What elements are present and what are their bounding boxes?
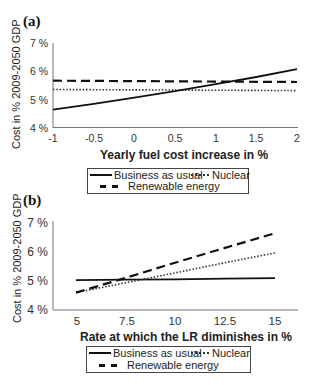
solid-line-swatch: [89, 352, 111, 354]
x-axis-label-a: Yearly fuel cost increase in %: [100, 148, 250, 162]
dotted-line-swatch: [191, 352, 209, 354]
dotted-line-swatch: [191, 174, 209, 176]
x-tick-a-2: 0: [119, 132, 149, 144]
series-bau-b: [76, 278, 275, 280]
legend-b: Business as usual Nuclear Renewable ener…: [86, 346, 251, 373]
series-renewable-a: [53, 81, 297, 82]
solid-line-swatch: [90, 174, 112, 176]
legend-text: Renewable energy: [128, 180, 220, 192]
x-tick-b-4: 15: [260, 315, 290, 327]
x-tick-a-5: 1.5: [241, 132, 271, 144]
x-axis-label-b: Rate at which the LR diminishes in %: [80, 330, 270, 344]
legend-item-nuclear-b: Nuclear: [191, 347, 250, 359]
chart-panel-b: (b) Cost in % 2009-2050 GDP 7 % 6 % 5 % …: [0, 195, 312, 385]
x-tick-a-4: 1: [201, 132, 231, 144]
x-tick-a-3: 0.5: [160, 132, 190, 144]
x-tick-b-1: 7.5: [112, 315, 142, 327]
legend-item-renewable-b: Renewable energy: [99, 359, 219, 371]
legend-text: Business as usual: [113, 347, 202, 359]
legend-text: Nuclear: [212, 347, 250, 359]
legend-item-bau-b: Business as usual: [89, 347, 202, 359]
x-tick-b-3: 12.5: [210, 315, 240, 327]
dashed-line-swatch: [99, 364, 117, 367]
series-nuclear-b: [76, 253, 275, 293]
plot-area-a: [0, 0, 312, 195]
dashed-line-swatch: [100, 185, 118, 188]
x-tick-a-1: -0.5: [79, 132, 109, 144]
series-renewable-b: [76, 233, 275, 292]
chart-panel-a: (a) Cost in % 2009-2050 GDP 7 % 6 % 5 % …: [0, 0, 312, 195]
legend-text: Renewable energy: [127, 359, 219, 371]
legend-a: Business as usual Nuclear Renewable ener…: [87, 168, 249, 194]
x-tick-a-0: -1: [38, 132, 68, 144]
x-tick-b-0: 5: [62, 315, 92, 327]
x-tick-a-6: 2: [282, 132, 312, 144]
x-tick-b-2: 10: [160, 315, 190, 327]
legend-item-renewable-a: Renewable energy: [100, 180, 220, 192]
